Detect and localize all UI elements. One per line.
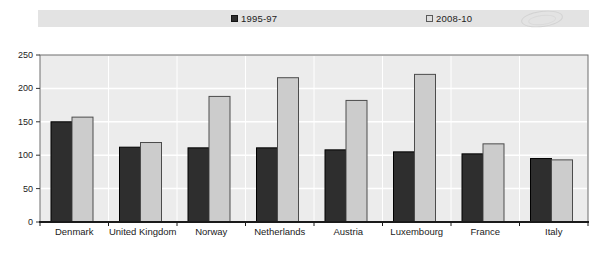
x-axis-label: Austria [333, 226, 363, 237]
bar-2008-10-italy [552, 160, 573, 222]
legend-swatch-outline-square-icon [426, 15, 433, 22]
legend-strip: 1995-97 2008-10 [38, 10, 589, 27]
x-axis-label: Italy [545, 226, 563, 237]
bar-2008-10-luxembourg [415, 74, 436, 222]
bar-1995-97-italy [531, 159, 552, 222]
bar-1995-97-norway [188, 148, 209, 222]
legend-item-2008-10: 2008-10 [426, 10, 472, 27]
x-axis-label: Luxembourg [390, 226, 443, 237]
bar-1995-97-luxembourg [394, 152, 415, 222]
bar-2008-10-denmark [72, 117, 93, 222]
y-axis-label: 50 [23, 184, 33, 194]
y-axis-label: 200 [18, 83, 33, 93]
legend-label-2008-10: 2008-10 [436, 13, 472, 24]
bar-1995-97-france [462, 154, 483, 222]
bar-1995-97-united-kingdom [120, 147, 141, 222]
bar-1995-97-netherlands [257, 148, 278, 222]
legend-item-1995-97: 1995-97 [231, 10, 277, 27]
x-axis-label: Denmark [55, 226, 94, 237]
x-axis-label: United Kingdom [109, 226, 177, 237]
y-axis-label: 150 [18, 117, 33, 127]
y-axis-label: 250 [18, 50, 33, 60]
legend-swatch-filled-square-icon [231, 15, 238, 22]
y-axis-label: 100 [18, 150, 33, 160]
legend-label-1995-97: 1995-97 [241, 13, 277, 24]
bar-chart: 050100150200250DenmarkUnited KingdomNorw… [0, 0, 606, 253]
x-axis-label: Netherlands [254, 226, 305, 237]
bar-2008-10-norway [209, 96, 230, 222]
bar-1995-97-denmark [51, 122, 72, 222]
bar-1995-97-austria [325, 150, 346, 222]
x-axis-label: France [470, 226, 500, 237]
faded-logo-watermark [520, 9, 564, 30]
y-axis-label: 0 [28, 217, 33, 227]
chart-figure: 1995-97 2008-10 050100150200250DenmarkUn… [0, 0, 606, 253]
bar-2008-10-austria [346, 100, 367, 222]
bar-2008-10-united-kingdom [141, 143, 162, 222]
bar-2008-10-france [483, 144, 504, 222]
x-axis-label: Norway [195, 226, 227, 237]
bar-2008-10-netherlands [278, 78, 299, 222]
